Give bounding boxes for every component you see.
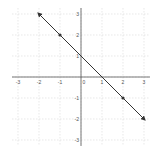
x-tick-label: 1 (101, 79, 104, 85)
x-tick-label: 3 (143, 79, 146, 85)
series-line (39, 14, 144, 119)
data-line (39, 14, 144, 119)
data-point (58, 33, 61, 36)
x-tick-label: -3 (16, 79, 21, 85)
x-tick-label: 0 (83, 79, 86, 85)
x-tick-label: -2 (37, 79, 42, 85)
y-tick-label: 3 (76, 11, 79, 17)
coordinate-plane: -3-2-10123321-1-2-3 (0, 0, 156, 150)
y-tick-label: 2 (76, 32, 79, 38)
x-tick-label: 2 (122, 79, 125, 85)
data-point (121, 96, 124, 99)
x-tick-label: -1 (58, 79, 63, 85)
y-tick-label: -1 (75, 95, 80, 101)
y-tick-label: -3 (75, 137, 80, 143)
axes (12, 8, 150, 146)
y-tick-label: -2 (75, 116, 80, 122)
